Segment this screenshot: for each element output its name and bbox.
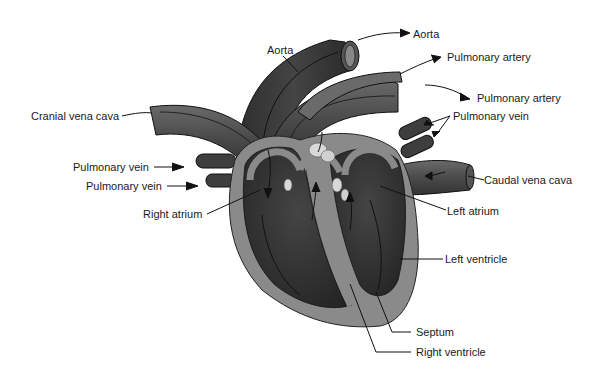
label-septum: Septum: [416, 326, 454, 338]
label-pulmonary-vein-left-2: Pulmonary vein: [86, 180, 162, 192]
label-left-ventricle: Left ventricle: [445, 253, 507, 265]
label-pulmonary-artery-2: Pulmonary artery: [477, 92, 561, 104]
label-right-ventricle: Right ventricle: [416, 346, 486, 358]
label-right-atrium: Right atrium: [143, 208, 202, 220]
label-pulmonary-vein-left-1: Pulmonary vein: [73, 161, 149, 173]
label-pulmonary-vein-right: Pulmonary vein: [453, 110, 529, 122]
label-aorta-left: Aorta: [267, 44, 293, 56]
label-aorta-top: Aorta: [413, 28, 439, 40]
heart-body: [229, 133, 418, 326]
label-left-atrium: Left atrium: [447, 205, 499, 217]
heart-diagram: Aorta Aorta Pulmonary artery Pulmonary a…: [0, 0, 596, 374]
label-cranial-vena-cava: Cranial vena cava: [31, 110, 119, 122]
label-caudal-vena-cava: Caudal vena cava: [484, 174, 572, 186]
label-pulmonary-artery-1: Pulmonary artery: [447, 51, 531, 63]
pulmonary-veins-left: [196, 154, 236, 187]
